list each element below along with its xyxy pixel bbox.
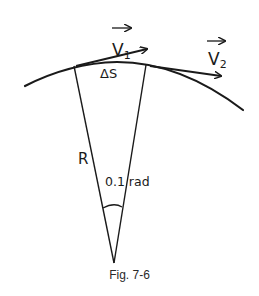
radius-line-right bbox=[114, 65, 146, 263]
label-v1: V1 bbox=[112, 40, 131, 62]
circular-motion-diagram: V1 V2 ΔS R 0.1 rad bbox=[0, 0, 259, 296]
label-arc-length: ΔS bbox=[100, 66, 117, 81]
angle-arc bbox=[103, 205, 122, 208]
circular-path-arc bbox=[25, 62, 243, 110]
label-radius: R bbox=[78, 150, 88, 168]
label-v2: V2 bbox=[208, 49, 227, 71]
label-angle: 0.1 rad bbox=[105, 174, 150, 189]
figure-caption: Fig. 7-6 bbox=[0, 268, 259, 282]
